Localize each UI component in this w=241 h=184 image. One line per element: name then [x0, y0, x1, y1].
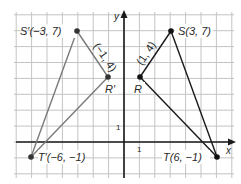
label-t-prime: T′(−6, −1) [38, 151, 86, 163]
vertex-s [168, 28, 174, 34]
side-label-image: (−1, 4) [91, 40, 119, 73]
label-r: R [134, 83, 142, 95]
label-s-prime: S′(−3, 7) [20, 25, 62, 37]
x-axis-label: x [225, 145, 232, 156]
vertex-r-prime [105, 74, 111, 80]
label-t: T(6, −1) [163, 151, 202, 163]
y-unit-tick-label: 1 [116, 123, 121, 132]
vertex-r [137, 74, 143, 80]
x-unit-tick-label: 1 [137, 145, 142, 154]
vertex-t [214, 154, 220, 160]
y-axis-arrow-icon [121, 10, 128, 18]
label-s: S(3, 7) [178, 25, 211, 37]
label-r-prime: R′ [105, 83, 116, 95]
vertex-s-prime [74, 28, 80, 34]
vertex-t-prime [28, 154, 34, 160]
y-axis-label: y [113, 11, 120, 22]
coordinate-plane-diagram: x y 1 1 S′(−3, 7) R′ T′(−6, −1) S(3, 7) … [0, 0, 241, 184]
